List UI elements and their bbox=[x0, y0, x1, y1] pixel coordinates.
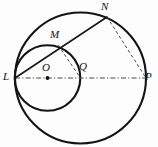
geometry-figure: L O Q P M N bbox=[0, 0, 158, 147]
point-label-p: P bbox=[145, 71, 152, 82]
point-label-q: Q bbox=[79, 61, 87, 72]
point-label-n: N bbox=[101, 1, 108, 12]
center-dot-o bbox=[46, 76, 50, 80]
geometry-canvas bbox=[0, 0, 158, 147]
point-label-m: M bbox=[50, 29, 59, 40]
point-label-l: L bbox=[3, 71, 9, 82]
point-label-o: O bbox=[42, 62, 50, 73]
